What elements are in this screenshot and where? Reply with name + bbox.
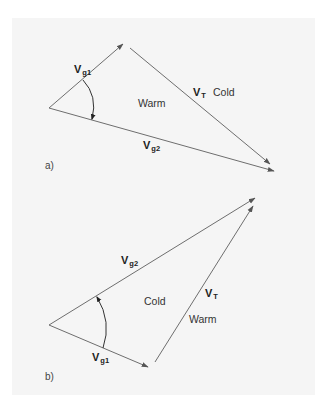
diagram-b — [49, 198, 255, 367]
region-label-warm-a: Warm — [138, 98, 166, 109]
label-vt-b: VT — [205, 288, 218, 301]
angle-arc-b-icon — [97, 297, 106, 348]
label-vg1-b: Vg1 — [92, 352, 109, 365]
label-vg1-a: Vg1 — [74, 64, 91, 77]
angle-arc-a-icon — [83, 80, 94, 119]
region-label-cold-a: Cold — [213, 87, 235, 98]
panel-label-b: b) — [45, 372, 54, 382]
label-vg2-a: Vg2 — [143, 140, 160, 153]
region-label-warm-b: Warm — [189, 314, 217, 325]
region-label-cold-b: Cold — [144, 296, 166, 307]
label-vt-a: VT — [193, 87, 206, 100]
label-vg2-b: Vg2 — [121, 255, 138, 268]
panel-label-a: a) — [45, 161, 54, 171]
vector-diagram-canvas — [0, 0, 319, 406]
